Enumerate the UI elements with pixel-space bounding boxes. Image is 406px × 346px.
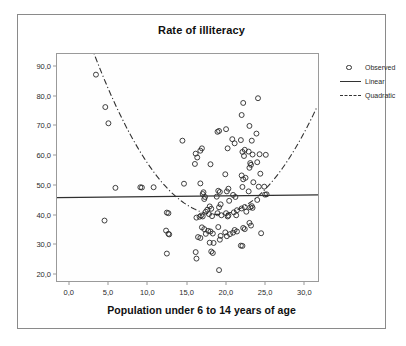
x-tick-mark [304, 281, 305, 285]
data-point [198, 181, 203, 186]
data-point [208, 162, 213, 167]
data-point [257, 152, 262, 157]
legend: Observed Linear Quadratic [340, 62, 406, 104]
figure-frame: Rate of illiteracy 20,030,040,050,060,07… [17, 14, 386, 329]
data-point [225, 146, 230, 151]
data-point [217, 128, 222, 133]
y-tick-mark [53, 214, 57, 215]
data-point [242, 205, 247, 210]
data-point [262, 184, 267, 189]
y-tick-mark [53, 155, 57, 156]
y-tick-label: 90,0 [36, 61, 51, 70]
data-point [214, 194, 219, 199]
legend-item-observed: Observed [340, 62, 406, 73]
y-tick-label: 80,0 [36, 91, 51, 100]
data-point [223, 172, 228, 177]
data-point [249, 138, 254, 143]
observed-marker-icon [340, 62, 362, 73]
data-point [193, 250, 198, 255]
legend-label-quadratic: Quadratic [365, 90, 395, 101]
data-point [258, 171, 263, 176]
observed-points-layer [93, 72, 269, 272]
y-tick-mark [53, 274, 57, 275]
data-point [182, 181, 187, 186]
data-point [239, 113, 244, 118]
y-tick-label: 20,0 [36, 270, 51, 279]
x-tick-label: 10,0 [140, 288, 155, 297]
x-tick-label: 30,0 [297, 288, 312, 297]
y-tick-label: 60,0 [36, 151, 51, 160]
data-point [232, 141, 237, 146]
data-point [251, 180, 256, 185]
data-point [113, 185, 118, 190]
quadratic-line-icon [340, 90, 362, 101]
x-tick-mark [68, 281, 69, 285]
y-tick-label: 50,0 [36, 180, 51, 189]
data-point [201, 190, 206, 195]
data-point [180, 138, 185, 143]
y-tick-mark [53, 65, 57, 66]
data-point [217, 268, 222, 273]
plot-area: 20,030,040,050,060,070,080,090,0 0,05,01… [56, 53, 319, 282]
legend-label-observed: Observed [365, 62, 395, 73]
data-point [103, 105, 108, 110]
data-point [254, 131, 259, 136]
data-point [224, 127, 229, 132]
x-tick-label: 5,0 [103, 288, 113, 297]
data-point [217, 205, 222, 210]
data-point [249, 162, 254, 167]
data-point [93, 72, 98, 77]
chart-title: Rate of illiteracy [18, 24, 385, 36]
y-tick-label: 30,0 [36, 240, 51, 249]
data-point [255, 160, 260, 165]
x-tick-label: 0,0 [64, 288, 74, 297]
y-tick-mark [53, 125, 57, 126]
data-point [256, 184, 261, 189]
y-tick-label: 40,0 [36, 210, 51, 219]
data-point [242, 227, 247, 232]
data-point [227, 198, 232, 203]
quadratic-fit-line [83, 54, 317, 214]
data-point [106, 121, 111, 126]
data-point [194, 256, 199, 261]
data-point [259, 231, 264, 236]
data-point [238, 138, 243, 143]
data-point [244, 209, 249, 214]
data-point [192, 161, 197, 166]
data-point [200, 214, 205, 219]
legend-item-quadratic: Quadratic [340, 90, 406, 101]
x-tick-mark [265, 281, 266, 285]
data-point [246, 189, 251, 194]
data-point [217, 189, 222, 194]
data-point [194, 215, 199, 220]
data-point [164, 251, 169, 256]
data-point [102, 218, 107, 223]
y-tick-mark [53, 244, 57, 245]
linear-fit-line [57, 195, 318, 198]
data-point [256, 96, 261, 101]
y-tick-mark [53, 95, 57, 96]
y-tick-mark [53, 184, 57, 185]
x-tick-mark [147, 281, 148, 285]
data-point [247, 165, 252, 170]
x-tick-label: 20,0 [218, 288, 233, 297]
x-tick-label: 15,0 [179, 288, 194, 297]
x-tick-mark [225, 281, 226, 285]
plot-canvas [57, 54, 318, 281]
data-point [250, 152, 255, 157]
x-tick-mark [108, 281, 109, 285]
legend-item-linear: Linear [340, 76, 406, 87]
legend-label-linear: Linear [365, 76, 384, 87]
y-tick-label: 70,0 [36, 121, 51, 130]
data-point [218, 202, 223, 207]
linear-line-icon [340, 76, 362, 87]
data-point [247, 123, 252, 128]
data-point [151, 185, 156, 190]
data-point [216, 225, 221, 230]
data-point [241, 100, 246, 105]
x-tick-mark [186, 281, 187, 285]
data-point [263, 152, 268, 157]
x-tick-label: 25,0 [258, 288, 273, 297]
x-axis-title: Population under 6 to 14 years of age [18, 304, 385, 316]
data-point [240, 184, 245, 189]
